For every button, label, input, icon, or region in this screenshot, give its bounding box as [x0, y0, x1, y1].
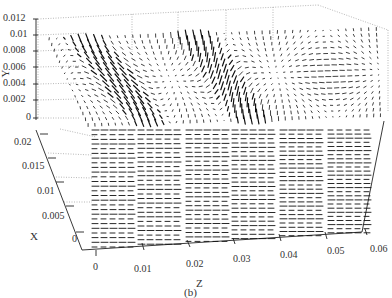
x-axis-title: X: [30, 231, 38, 242]
x-tick-label: 0.015: [22, 161, 45, 171]
x-tick-label: 0.01: [37, 186, 55, 196]
x-tick-label: 0.005: [42, 211, 65, 221]
z-axis-title: Z: [196, 278, 203, 289]
y-tick-label: 0.002: [3, 94, 26, 104]
z-tick-label: 0: [93, 262, 98, 272]
z-tick-label: 0.01: [134, 264, 152, 274]
z-tick-label: 0.02: [186, 259, 204, 269]
z-tick-label: 0.06: [370, 244, 388, 254]
z-tick-label: 0.03: [233, 254, 251, 264]
y-tick-label: 0.004: [3, 78, 26, 88]
y-tick-label: 0.01: [10, 29, 28, 39]
figure-caption: (b): [184, 287, 197, 298]
z-tick-label: 0.04: [280, 250, 298, 260]
y-tick-label: 0.012: [3, 13, 26, 23]
z-tick-label: 0.05: [327, 246, 345, 256]
x-tick-label: 0: [72, 234, 77, 244]
y-axis-title: Y: [0, 70, 11, 78]
x-tick-label: 0.02: [14, 137, 32, 147]
figure: 0.012 0.01 0.008 0.006 0.004 0.002 0 Y 0…: [0, 0, 392, 298]
y-tick-label: 0.008: [3, 45, 26, 55]
y-tick-label: 0: [26, 112, 31, 122]
